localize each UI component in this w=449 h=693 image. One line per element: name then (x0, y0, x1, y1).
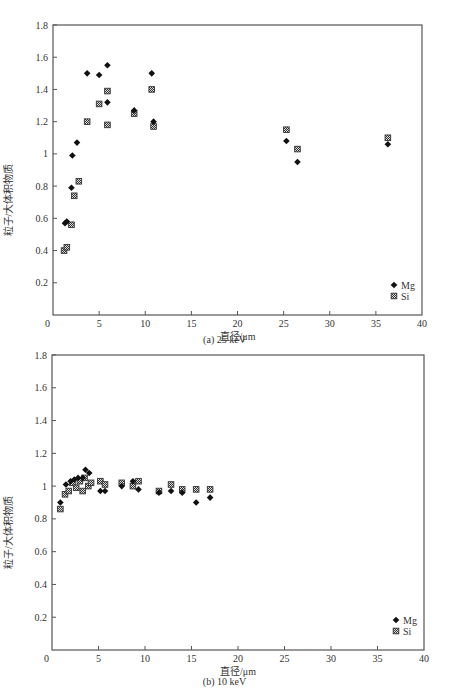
x-tick-label: 15 (186, 318, 196, 329)
legend-label-si: Si (401, 291, 410, 302)
x-tick-label: 5 (96, 653, 101, 664)
x-tick-label: 20 (233, 653, 243, 664)
plot-frame (52, 355, 424, 650)
x-tick-label: 25 (279, 318, 289, 329)
y-tick-label: 0.4 (36, 245, 49, 256)
x-tick-label: 35 (373, 653, 383, 664)
legend: MgSi (393, 615, 417, 637)
x-tick-label: 35 (371, 318, 381, 329)
y-tick-label: 1.4 (35, 415, 48, 426)
x-tick-label: 10 (140, 653, 150, 664)
x-tick-label: 5 (97, 318, 102, 329)
series-mg (62, 62, 391, 226)
y-tick-label: 0.2 (35, 612, 48, 623)
series-si (61, 87, 390, 254)
x-tick-label: 30 (326, 653, 336, 664)
y-tick-label: 0 (44, 653, 49, 664)
legend-label-si: Si (403, 626, 412, 637)
x-tick-label: 40 (419, 653, 429, 664)
y-tick-label: 0.4 (35, 579, 48, 590)
x-tick-label: 10 (140, 318, 150, 329)
chart-b: 00.20.40.60.811.21.41.61.851015202530354… (0, 330, 449, 693)
legend: MgSi (391, 280, 415, 302)
y-axis-label: 粒子/大体积物质 (2, 164, 14, 237)
y-tick-label: 1.4 (36, 84, 49, 95)
chart-b-caption: (b) 10 keV (0, 676, 449, 687)
legend-label-mg: Mg (401, 280, 415, 291)
x-tick-label: 15 (187, 653, 197, 664)
chart-b-plot: 00.20.40.60.811.21.41.61.851015202530354… (0, 330, 449, 693)
y-tick-label: 0.6 (36, 213, 49, 224)
y-tick-label: 0.6 (35, 546, 48, 557)
y-tick-label: 1.2 (35, 448, 48, 459)
y-tick-label: 1 (43, 148, 48, 159)
plot-frame (53, 25, 422, 315)
legend-label-mg: Mg (403, 615, 417, 626)
y-axis-label: 粒子/大体积物质 (2, 496, 14, 569)
x-tick-label: 20 (233, 318, 243, 329)
chart-a-plot: 00.20.40.60.811.21.41.61.851015202530354… (0, 0, 449, 345)
y-tick-label: 1.2 (36, 116, 49, 127)
y-tick-label: 1.6 (36, 52, 49, 63)
x-tick-label: 40 (417, 318, 427, 329)
chart-a: 00.20.40.60.811.21.41.61.851015202530354… (0, 0, 449, 345)
y-tick-label: 1.6 (35, 382, 48, 393)
y-tick-label: 1 (42, 481, 47, 492)
x-tick-label: 30 (325, 318, 335, 329)
y-tick-label: 0.8 (36, 181, 49, 192)
y-tick-label: 1.8 (35, 350, 48, 361)
y-tick-label: 0.2 (36, 277, 49, 288)
y-tick-label: 0 (45, 318, 50, 329)
y-tick-label: 0.8 (35, 513, 48, 524)
x-tick-label: 25 (280, 653, 290, 664)
y-tick-label: 1.8 (36, 20, 49, 31)
